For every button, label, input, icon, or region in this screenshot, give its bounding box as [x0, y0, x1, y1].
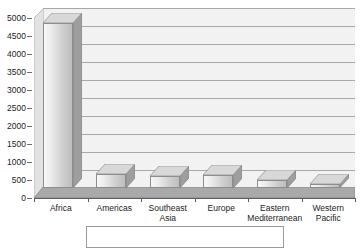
- y-axis-tick-mark: [27, 162, 32, 163]
- x-axis-tick-mark: [195, 198, 196, 202]
- x-axis-tick-mark: [355, 198, 356, 202]
- y-axis-tick-mark: [27, 108, 32, 109]
- y-axis-tick-mark: [27, 72, 32, 73]
- y-axis-tick-label: 1000: [7, 158, 26, 167]
- bar-front-face: [43, 23, 73, 188]
- y-axis-tick-label: 500: [12, 176, 26, 185]
- bars-layer: [34, 8, 355, 198]
- y-axis-tick-mark: [27, 126, 32, 127]
- y-axis-tick-label: 4500: [7, 32, 26, 41]
- bar-front-face: [96, 174, 126, 188]
- y-axis: 5000450040003500300025002000150010005000: [0, 0, 34, 200]
- bar-front-face: [257, 180, 287, 188]
- x-axis-tick-label-line: Asia: [126, 213, 209, 223]
- bar-top-face: [310, 174, 349, 184]
- x-axis-tick-mark: [88, 198, 89, 202]
- legend-box: [86, 226, 284, 248]
- bar-top-face: [43, 13, 82, 23]
- y-axis-tick-mark: [27, 18, 32, 19]
- x-axis-tick-mark: [34, 198, 35, 202]
- bar-side-face: [73, 13, 82, 188]
- bar-top-face: [150, 166, 189, 176]
- bar[interactable]: [203, 165, 233, 188]
- y-axis-tick-mark: [27, 36, 32, 37]
- x-axis-tick-mark: [141, 198, 142, 202]
- bar-top-face: [96, 164, 135, 174]
- y-axis-tick-mark: [27, 180, 32, 181]
- x-axis-tick-mark: [248, 198, 249, 202]
- y-axis-tick-mark: [27, 54, 32, 55]
- y-axis-tick-label: 4000: [7, 50, 26, 59]
- bar[interactable]: [43, 13, 73, 188]
- y-axis-tick-label: 2000: [7, 122, 26, 131]
- y-axis-tick-label: 0: [21, 194, 26, 203]
- bar[interactable]: [310, 174, 340, 188]
- bar-top-face: [257, 170, 296, 180]
- bar[interactable]: [96, 164, 126, 188]
- y-axis-tick-mark: [27, 90, 32, 91]
- bar-top-face: [203, 165, 242, 175]
- x-axis-tick-label-line: Pacific: [287, 213, 364, 223]
- y-axis-tick-label: 5000: [7, 14, 26, 23]
- y-axis-tick-label: 2500: [7, 104, 26, 113]
- y-axis-tick-mark: [27, 144, 32, 145]
- y-axis-tick-label: 3500: [7, 68, 26, 77]
- bar-front-face: [203, 175, 233, 188]
- bar-front-face: [310, 184, 340, 188]
- bar-front-face: [150, 176, 180, 188]
- bar[interactable]: [150, 166, 180, 188]
- x-axis-tick-label: WesternPacific: [287, 203, 364, 223]
- y-axis-tick-label: 1500: [7, 140, 26, 149]
- bar[interactable]: [257, 170, 287, 188]
- y-axis-tick-label: 3000: [7, 86, 26, 95]
- y-axis-tick-mark: [27, 198, 32, 199]
- x-axis-tick-mark: [302, 198, 303, 202]
- x-axis-tick-label-line: Western: [287, 203, 364, 213]
